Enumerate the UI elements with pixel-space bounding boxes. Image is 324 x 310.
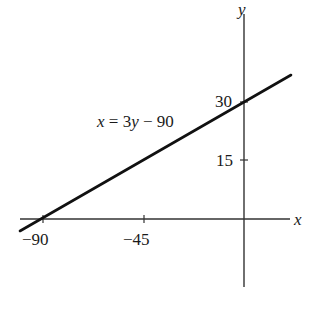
y-axis-label: y xyxy=(236,0,246,19)
y-tick-label-30: 30 xyxy=(215,92,232,111)
equation-var: y xyxy=(129,112,139,131)
x-tick-label-neg90: −90 xyxy=(22,230,49,249)
y-tick-label-15: 15 xyxy=(216,151,233,170)
equation-line xyxy=(20,75,291,231)
x-tick-label-neg45: −45 xyxy=(123,230,150,249)
equation-rest: − 90 xyxy=(139,112,174,131)
equation-eq: = 3 xyxy=(105,112,132,131)
x-axis-label: x xyxy=(293,210,302,229)
equation-label: x = 3y − 90 xyxy=(96,112,174,131)
chart-canvas: x y −90 −45 15 30 x = 3y − 90 xyxy=(0,0,324,310)
